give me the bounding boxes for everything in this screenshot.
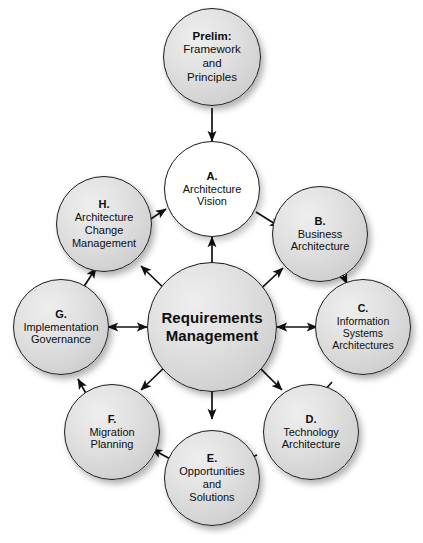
- node-phase-c-line-1: Information: [332, 315, 393, 327]
- node-phase-e-line-1: Opportunities: [179, 465, 244, 478]
- node-phase-g-line-1: Implementation: [23, 321, 98, 334]
- node-phase-g-line-2: Governance: [23, 333, 98, 346]
- node-requirements-management-line-2: Management: [161, 327, 262, 345]
- node-phase-h-letter: H.: [72, 198, 136, 211]
- node-phase-f-line-1: Migration: [89, 426, 134, 439]
- node-phase-b-text: B. Business Architecture: [290, 215, 351, 254]
- node-phase-a[interactable]: A. Architecture Vision: [164, 141, 260, 237]
- node-requirements-management-line-1: Requirements: [161, 309, 262, 327]
- node-phase-g-text: G. Implementation Governance: [22, 308, 99, 347]
- node-phase-f-letter: F.: [89, 413, 134, 426]
- node-prelim-line-1: Framework: [183, 43, 241, 57]
- node-phase-c-text: C. Information Systems Architectures: [331, 302, 394, 352]
- node-phase-g-letter: G.: [23, 308, 98, 321]
- node-phase-h-line-3: Management: [72, 237, 136, 250]
- node-phase-b-line-2: Architecture: [291, 240, 350, 253]
- node-phase-c-letter: C.: [332, 302, 393, 314]
- node-phase-a-line-2: Vision: [183, 195, 242, 208]
- node-phase-d-line-2: Architecture: [282, 438, 341, 451]
- node-phase-b-letter: B.: [291, 215, 350, 228]
- node-phase-d-letter: D.: [282, 413, 341, 426]
- node-phase-e-text: E. Opportunities and Solutions: [178, 452, 245, 504]
- node-phase-d[interactable]: D. Technology Architecture: [263, 384, 359, 480]
- node-phase-d-text: D. Technology Architecture: [281, 413, 342, 452]
- node-prelim[interactable]: Prelim: Framework and Principles: [163, 8, 261, 106]
- node-phase-b-line-1: Business: [291, 228, 350, 241]
- node-prelim-letter: Prelim:: [183, 30, 241, 44]
- node-phase-e-letter: E.: [179, 452, 244, 465]
- node-phase-h-line-1: Architecture: [72, 211, 136, 224]
- togaf-adm-diagram: Prelim: Framework and Principles A. Arch…: [0, 0, 423, 543]
- node-phase-c[interactable]: C. Information Systems Architectures: [315, 279, 411, 375]
- node-phase-h-text: H. Architecture Change Management: [71, 198, 137, 250]
- node-phase-b[interactable]: B. Business Architecture: [272, 186, 368, 282]
- node-phase-a-letter: A.: [183, 170, 242, 183]
- node-phase-g[interactable]: G. Implementation Governance: [13, 279, 109, 375]
- node-prelim-line-3: Principles: [183, 71, 241, 85]
- node-phase-c-line-3: Architectures: [332, 339, 393, 351]
- node-phase-f[interactable]: F. Migration Planning: [64, 384, 160, 480]
- node-phase-a-text: A. Architecture Vision: [182, 170, 243, 209]
- node-requirements-management[interactable]: Requirements Management: [147, 262, 277, 392]
- node-phase-h[interactable]: H. Architecture Change Management: [56, 176, 152, 272]
- node-phase-a-line-1: Architecture: [183, 183, 242, 196]
- node-phase-e[interactable]: E. Opportunities and Solutions: [164, 430, 260, 526]
- node-prelim-text: Prelim: Framework and Principles: [182, 30, 242, 84]
- node-phase-f-text: F. Migration Planning: [88, 413, 135, 452]
- node-phase-h-line-2: Change: [72, 224, 136, 237]
- node-requirements-management-text: Requirements Management: [160, 309, 263, 344]
- node-phase-e-line-2: and: [179, 478, 244, 491]
- node-phase-c-line-2: Systems: [332, 327, 393, 339]
- node-prelim-line-2: and: [183, 57, 241, 71]
- node-phase-f-line-2: Planning: [89, 438, 134, 451]
- node-phase-e-line-3: Solutions: [179, 491, 244, 504]
- node-phase-d-line-1: Technology: [282, 426, 341, 439]
